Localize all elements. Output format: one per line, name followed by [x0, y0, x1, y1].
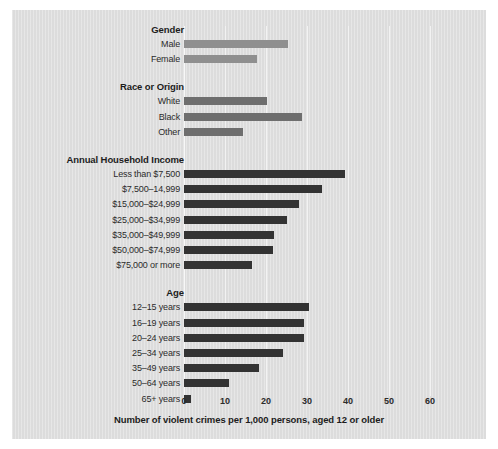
bar-row: 25–34 years	[12, 348, 486, 359]
bar-row: 12–15 years	[12, 302, 486, 313]
chart-panel: GenderMaleFemaleRace or OriginWhiteBlack…	[12, 10, 486, 439]
bar	[184, 216, 287, 224]
bar	[184, 40, 288, 48]
x-tick-label-20: 20	[261, 396, 271, 406]
bar	[184, 379, 229, 387]
group-title: Race or Origin	[12, 81, 184, 92]
bar	[184, 55, 257, 63]
bar	[184, 334, 304, 342]
x-tick-label-0: 0	[181, 396, 186, 406]
bar	[184, 349, 283, 357]
bar	[184, 128, 243, 136]
bar-label: Other	[12, 127, 180, 138]
x-axis-title: Number of violent crimes per 1,000 perso…	[12, 414, 486, 425]
bar-label: Female	[12, 54, 180, 65]
bar-row: Black	[12, 112, 486, 123]
bar-label: 25–34 years	[12, 348, 180, 359]
x-tick-label-60: 60	[425, 396, 435, 406]
bar-row: Female	[12, 54, 486, 65]
bar-label: Male	[12, 39, 180, 50]
x-tick-label-10: 10	[220, 396, 230, 406]
group-title: Age	[12, 287, 184, 298]
bar-row: 16–19 years	[12, 318, 486, 329]
bar	[184, 231, 274, 239]
bar-row: $7,500–14,999	[12, 184, 486, 195]
bar-row: $25,000–$34,999	[12, 215, 486, 226]
bar-label: White	[12, 96, 180, 107]
group-title: Annual Household Income	[12, 154, 184, 165]
bar	[184, 246, 273, 254]
bar-row: 20–24 years	[12, 333, 486, 344]
bar	[184, 170, 345, 178]
x-tick-label-40: 40	[343, 396, 353, 406]
bar-row: $15,000–$24,999	[12, 199, 486, 210]
bar-label: $35,000–$49,999	[12, 230, 180, 241]
violent-crime-bar-chart: GenderMaleFemaleRace or OriginWhiteBlack…	[0, 0, 498, 449]
bar-row: $50,000–$74,999	[12, 245, 486, 256]
bar	[184, 97, 267, 105]
bar-row: $35,000–$49,999	[12, 230, 486, 241]
bar	[184, 185, 322, 193]
bar	[184, 113, 302, 121]
bar-label: Black	[12, 112, 180, 123]
x-axis: 0102030405060	[12, 396, 486, 410]
bar	[184, 364, 259, 372]
group-title: Gender	[12, 24, 184, 35]
bar	[184, 303, 309, 311]
bar-label: $75,000 or more	[12, 260, 180, 271]
bar-label: $50,000–$74,999	[12, 245, 180, 256]
x-tick-label-50: 50	[384, 396, 394, 406]
bar-label: Less than $7,500	[12, 169, 180, 180]
bar-label: $15,000–$24,999	[12, 199, 180, 210]
bar-label: $7,500–14,999	[12, 184, 180, 195]
bar-row: Other	[12, 127, 486, 138]
bar	[184, 200, 299, 208]
bar	[184, 261, 252, 269]
x-tick-label-30: 30	[302, 396, 312, 406]
bar-row: $75,000 or more	[12, 260, 486, 271]
bar-label: 16–19 years	[12, 318, 180, 329]
bar-label: 50–64 years	[12, 378, 180, 389]
bar-label: $25,000–$34,999	[12, 215, 180, 226]
bar-row: Less than $7,500	[12, 169, 486, 180]
bar-label: 35–49 years	[12, 363, 180, 374]
bar-row: Male	[12, 39, 486, 50]
bar-label: 20–24 years	[12, 333, 180, 344]
bar-label: 12–15 years	[12, 302, 180, 313]
bar-row: 50–64 years	[12, 378, 486, 389]
bar	[184, 319, 304, 327]
bar-row: 35–49 years	[12, 363, 486, 374]
bar-row: White	[12, 96, 486, 107]
